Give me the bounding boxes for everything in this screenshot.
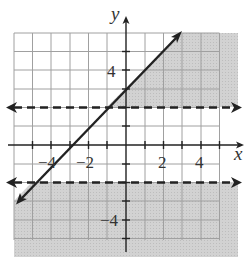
x-tick-label-neg4: −4 <box>38 153 57 172</box>
x-tick-label-neg2: −2 <box>76 153 94 172</box>
x-axis-label: x <box>233 143 243 164</box>
y-tick-label-4: 4 <box>107 62 116 81</box>
coordinate-plane: y x −4 −2 2 4 4 −4 <box>0 0 252 260</box>
y-tick-label-neg4: −4 <box>100 211 119 230</box>
x-tick-label-2: 2 <box>158 153 167 172</box>
y-axis-label: y <box>109 3 120 24</box>
solid-line-y-equals-x-plus-3 <box>16 31 182 205</box>
x-tick-label-4: 4 <box>195 153 204 172</box>
